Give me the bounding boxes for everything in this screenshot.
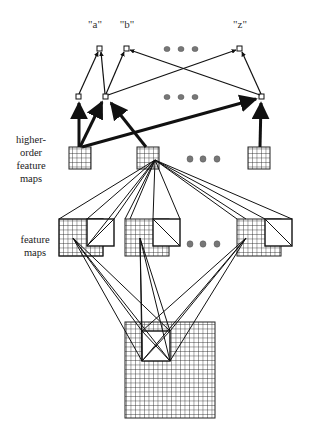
hidden-unit-1	[76, 94, 81, 99]
feature-maps-label: feature maps	[20, 234, 49, 258]
feature-map-ellipsis	[187, 241, 220, 247]
output-label-b: "b"	[120, 18, 134, 30]
svg-text:higher-: higher-	[16, 134, 47, 145]
svg-text:feature: feature	[20, 234, 49, 245]
input-image-grid	[125, 322, 215, 418]
higher-order-feature-maps-label: higher- order feature maps	[16, 134, 47, 184]
output-unit-b	[124, 46, 129, 51]
output-ellipsis	[164, 46, 198, 51]
svg-text:order: order	[20, 147, 43, 158]
output-unit-a	[97, 46, 102, 51]
output-label-z: "z"	[233, 18, 247, 30]
feature-map-2	[125, 219, 180, 256]
feature-map-n	[237, 219, 292, 256]
map-to-hidden-connections	[79, 99, 261, 147]
hidden-unit-2	[103, 94, 108, 99]
svg-text:maps: maps	[24, 247, 46, 258]
higher-order-map-n	[248, 147, 270, 169]
higher-order-ellipsis	[187, 156, 220, 162]
hidden-to-output-connections	[79, 50, 261, 95]
higher-order-map-1	[69, 147, 91, 169]
output-label-a: "a"	[88, 18, 102, 30]
hidden-ellipsis	[164, 94, 198, 99]
output-unit-z	[237, 46, 242, 51]
svg-text:maps: maps	[20, 173, 42, 184]
svg-text:feature: feature	[16, 160, 45, 171]
network-diagram: "a" "b" "z"	[0, 0, 313, 442]
